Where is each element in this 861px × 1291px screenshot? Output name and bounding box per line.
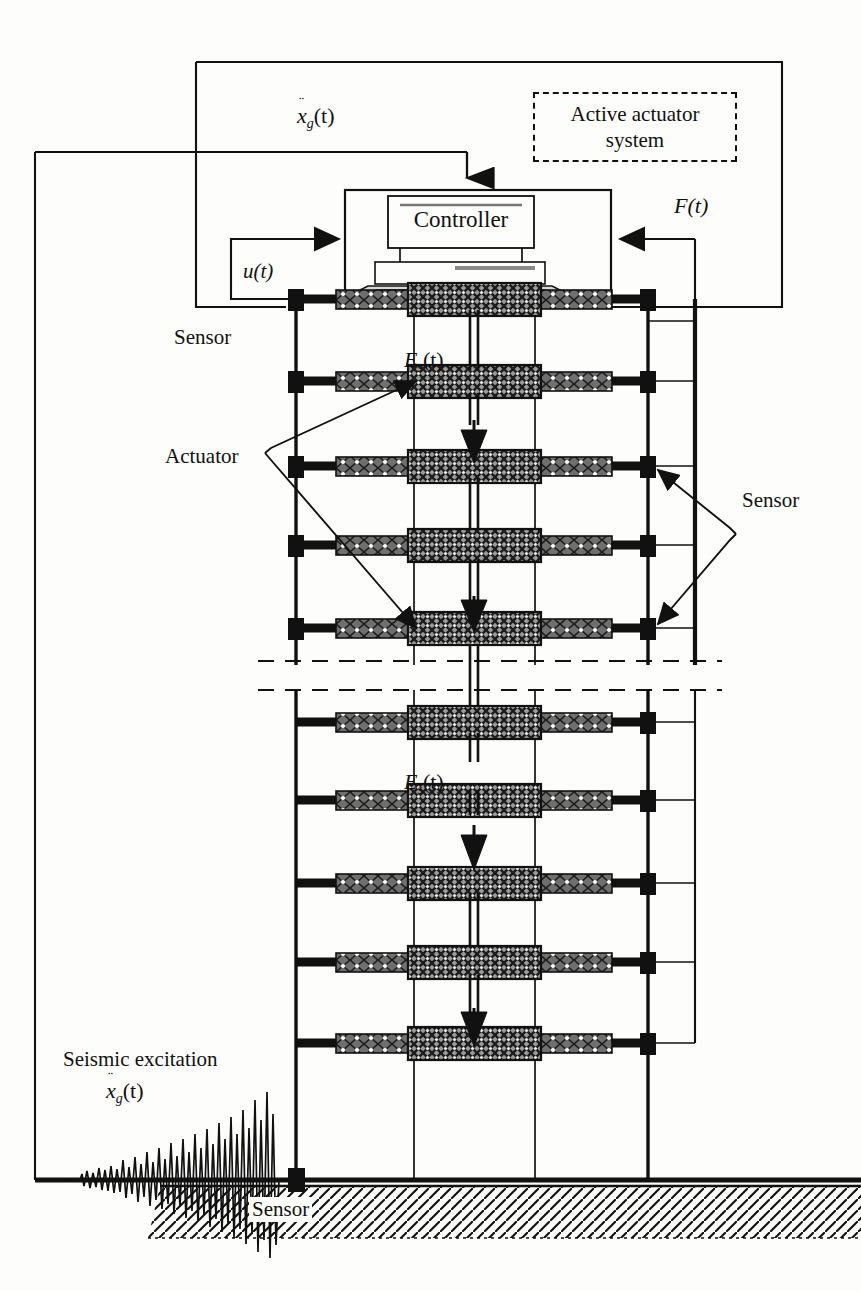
active-actuator-system-box: Active actuator system bbox=[533, 92, 737, 162]
ddot-accent-bottom: ¨ bbox=[108, 1069, 114, 1086]
active-actuator-line2: system bbox=[606, 127, 664, 153]
columns-lower bbox=[296, 690, 648, 1180]
floor-assembly-lower-1 bbox=[296, 706, 656, 739]
actuator-label: Actuator bbox=[165, 444, 238, 469]
F-signal-loop bbox=[620, 239, 695, 299]
story-force-label-upper: Es(t) bbox=[404, 347, 444, 376]
floor-assembly-lower-4 bbox=[296, 946, 656, 979]
es-symbol-upper: E bbox=[404, 347, 417, 372]
es-args-upper: (t) bbox=[423, 347, 444, 372]
u-signal-label: u(t) bbox=[243, 259, 273, 284]
floor-assembly-lower-3 bbox=[296, 867, 656, 900]
seismic-excitation-label: Seismic excitation bbox=[63, 1047, 218, 1072]
es-symbol-lower: E bbox=[404, 769, 417, 794]
ground bbox=[35, 1180, 861, 1238]
xg-subscript-top: g bbox=[307, 116, 314, 131]
F-signal-label: F(t) bbox=[674, 193, 708, 219]
ground-acceleration-label-top: ¨xg(t) bbox=[297, 103, 335, 132]
break-lines bbox=[258, 661, 722, 690]
es-args-lower: (t) bbox=[423, 769, 444, 794]
sensor-label-right: Sensor bbox=[742, 488, 799, 513]
figure-canvas: Active actuator system Controller Sensor… bbox=[0, 0, 861, 1291]
floor-assembly-lower-2 bbox=[296, 784, 656, 817]
floor-assembly-upper-4 bbox=[288, 529, 656, 562]
ground-sensor-node bbox=[288, 1168, 305, 1192]
active-actuator-line1: Active actuator bbox=[571, 101, 700, 127]
controller-label: Controller bbox=[396, 198, 526, 242]
sensor-bus-lower bbox=[648, 690, 695, 1043]
ddot-accent-top: ¨ bbox=[299, 94, 305, 111]
floor-assembly-upper-2 bbox=[288, 365, 656, 398]
xg-args-top: (t) bbox=[314, 103, 335, 128]
xg-subscript-bottom: g bbox=[116, 1091, 123, 1106]
actuator-leader-lines bbox=[265, 381, 416, 628]
story-force-break bbox=[470, 645, 478, 706]
ground-acceleration-label-bottom: ¨xg(t) bbox=[106, 1078, 144, 1107]
story-force-label-lower: Es(t) bbox=[404, 769, 444, 798]
sensor-label-left: Sensor bbox=[174, 325, 231, 350]
sensor-label-ground: Sensor bbox=[249, 1197, 312, 1222]
xg-args-bottom: (t) bbox=[123, 1078, 144, 1103]
